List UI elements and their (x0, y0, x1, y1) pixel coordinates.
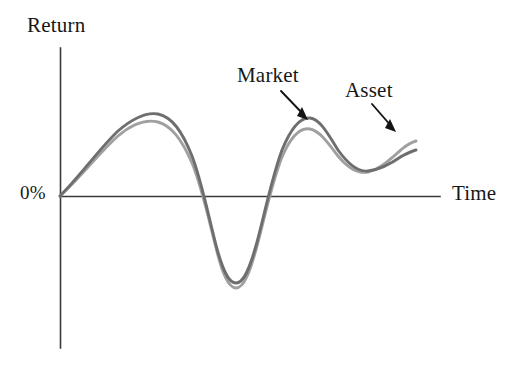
zero-tick-label: 0% (20, 183, 46, 202)
series-line-asset (60, 121, 416, 288)
asset-series-label: Asset (345, 80, 393, 101)
return-chart-figure: Return 0% Time Market Asset (0, 0, 517, 373)
chart-canvas (0, 0, 517, 373)
y-axis-title: Return (27, 15, 85, 36)
market-annotation-arrow (281, 91, 308, 120)
asset-annotation-arrow (372, 104, 396, 132)
market-series-label: Market (237, 65, 299, 86)
x-axis-title: Time (452, 183, 496, 204)
